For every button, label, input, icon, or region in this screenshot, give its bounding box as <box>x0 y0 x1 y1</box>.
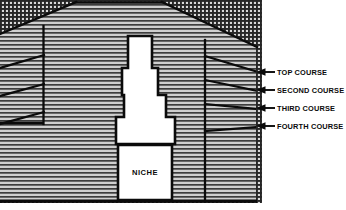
callout-label-top-course: TOP COURSE <box>277 68 327 77</box>
callout-third-course: THIRD COURSE <box>256 104 335 113</box>
section-drawing: NICHE TOP COURSE SECOND COURSE THIRD COU… <box>0 0 346 210</box>
baseline <box>0 200 257 203</box>
niche-label: NICHE <box>132 168 158 177</box>
callout-fourth-course: FOURTH COURSE <box>256 122 343 131</box>
callout-label-second-course: SECOND COURSE <box>277 86 344 95</box>
callout-label-fourth-course: FOURTH COURSE <box>277 122 343 131</box>
callout-top-course: TOP COURSE <box>256 68 327 77</box>
callout-label-third-course: THIRD COURSE <box>277 104 335 113</box>
callout-second-course: SECOND COURSE <box>256 86 344 95</box>
figure-container: NICHE TOP COURSE SECOND COURSE THIRD COU… <box>0 0 346 210</box>
